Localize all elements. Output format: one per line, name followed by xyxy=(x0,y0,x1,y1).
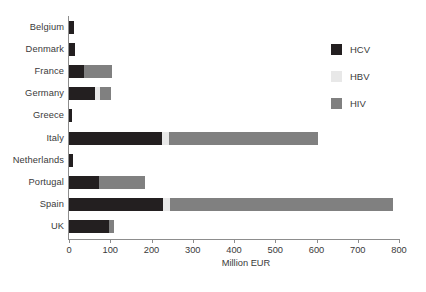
bar-row xyxy=(69,216,399,238)
bar-segment-hcv xyxy=(69,21,74,34)
bar-row xyxy=(69,171,399,193)
legend-label: HCV xyxy=(350,44,370,55)
stacked-bar-chart: BelgiumDenmarkFranceGermanyGreeceItalyNe… xyxy=(0,0,426,292)
bar-segment-hcv xyxy=(69,176,99,189)
bar-track xyxy=(69,198,393,211)
bar-segment-hiv xyxy=(99,176,145,189)
y-axis-category-label: UK xyxy=(0,221,64,232)
x-axis-tick-label: 200 xyxy=(144,245,160,256)
bar-segment-hiv xyxy=(109,220,113,233)
bar-segment-hbv xyxy=(163,198,170,211)
bar-segment-hcv xyxy=(69,43,75,56)
y-axis-category-labels: BelgiumDenmarkFranceGermanyGreeceItalyNe… xyxy=(0,16,64,238)
y-axis-category-label: Belgium xyxy=(0,22,64,33)
bar-row xyxy=(69,194,399,216)
legend-swatch-hiv xyxy=(331,98,342,109)
legend-swatch-hcv xyxy=(331,44,342,55)
bar-segment-hiv xyxy=(169,132,318,145)
bar-track xyxy=(69,65,112,78)
legend-item-hbv[interactable]: HBV xyxy=(331,71,370,82)
legend-item-hiv[interactable]: HIV xyxy=(331,98,370,109)
bar-segment-hbv xyxy=(162,132,169,145)
x-axis-tick-label: 500 xyxy=(267,245,283,256)
x-axis-tick xyxy=(399,239,400,243)
x-axis-tick-label: 400 xyxy=(226,245,242,256)
legend-label: HBV xyxy=(350,71,370,82)
bar-row xyxy=(69,127,399,149)
y-axis-category-label: Spain xyxy=(0,199,64,210)
x-axis-tick xyxy=(234,239,235,243)
x-axis-tick-label: 100 xyxy=(102,245,118,256)
bar-track xyxy=(69,21,74,34)
bar-segment-hiv xyxy=(170,198,393,211)
legend-item-hcv[interactable]: HCV xyxy=(331,44,370,55)
x-axis-tick xyxy=(275,239,276,243)
x-axis-tick xyxy=(317,239,318,243)
bar-segment-hcv xyxy=(69,154,73,167)
bar-segment-hcv xyxy=(69,65,84,78)
x-axis-title: Million EUR xyxy=(0,258,426,268)
bar-segment-hiv xyxy=(84,65,112,78)
y-axis-category-label: Portugal xyxy=(0,177,64,188)
y-axis-category-label: Greece xyxy=(0,110,64,121)
bar-segment-hcv xyxy=(69,109,72,122)
x-axis-tick-label: 700 xyxy=(350,245,366,256)
bar-row xyxy=(69,149,399,171)
bar-segment-hcv xyxy=(69,87,95,100)
x-axis-tick xyxy=(358,239,359,243)
y-axis-category-label: France xyxy=(0,66,64,77)
y-axis-category-label: Denmark xyxy=(0,44,64,55)
bar-track xyxy=(69,87,111,100)
x-axis-title-text: Million EUR xyxy=(222,258,271,268)
y-axis-category-label: Netherlands xyxy=(0,155,64,166)
chart-legend: HCVHBVHIV xyxy=(331,44,370,109)
x-axis-tick xyxy=(69,239,70,243)
bar-track xyxy=(69,43,75,56)
bar-segment-hcv xyxy=(69,198,163,211)
legend-label: HIV xyxy=(350,98,366,109)
bar-track xyxy=(69,154,73,167)
x-axis-tick xyxy=(110,239,111,243)
x-axis-tick-label: 800 xyxy=(391,245,407,256)
bar-segment-hcv xyxy=(69,220,109,233)
bar-track xyxy=(69,132,318,145)
legend-swatch-hbv xyxy=(331,71,342,82)
x-axis-tick-label: 300 xyxy=(185,245,201,256)
bar-segment-hcv xyxy=(69,132,162,145)
bar-track xyxy=(69,176,145,189)
bar-segment-hiv xyxy=(100,87,112,100)
x-axis-tick xyxy=(193,239,194,243)
x-axis-tick xyxy=(152,239,153,243)
y-axis-category-label: Germany xyxy=(0,88,64,99)
y-axis-category-label: Italy xyxy=(0,133,64,144)
x-axis-tick-label: 600 xyxy=(309,245,325,256)
x-axis-tick-label: 0 xyxy=(66,245,71,256)
bar-row xyxy=(69,16,399,38)
bar-track xyxy=(69,109,72,122)
bar-track xyxy=(69,220,114,233)
